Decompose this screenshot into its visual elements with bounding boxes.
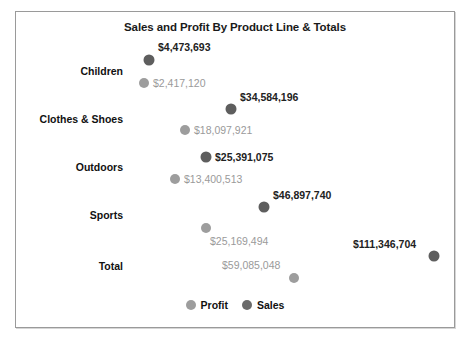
screenshot-root: Sales and Profit By Product Line & Total…: [0, 0, 465, 344]
legend-label-sales: Sales: [257, 299, 284, 311]
data-label-total-sales: $111,346,704: [353, 238, 416, 250]
plot-area: Children Clothes & Shoes Outdoors Sports…: [16, 12, 454, 327]
data-label-outdoors-sales: $25,391,075: [215, 151, 273, 163]
data-point-clothes-shoes-sales[interactable]: [226, 104, 237, 115]
legend-swatch-sales-icon: [242, 300, 252, 310]
data-label-sports-profit: $25,169,494: [210, 235, 268, 247]
category-label-sports: Sports: [90, 209, 123, 221]
category-label-total: Total: [99, 260, 123, 272]
data-label-outdoors-profit: $13,400,513: [184, 173, 242, 185]
chart-frame: Sales and Profit By Product Line & Total…: [15, 11, 455, 328]
data-point-outdoors-profit[interactable]: [170, 174, 180, 184]
data-label-sports-sales: $46,897,740: [273, 189, 331, 201]
category-label-outdoors: Outdoors: [76, 161, 123, 173]
data-point-children-sales[interactable]: [144, 55, 155, 66]
data-point-outdoors-sales[interactable]: [201, 152, 212, 163]
legend-swatch-profit-icon: [186, 300, 196, 310]
data-point-sports-profit[interactable]: [201, 223, 211, 233]
data-point-clothes-shoes-profit[interactable]: [180, 125, 190, 135]
data-point-total-profit[interactable]: [289, 273, 299, 283]
legend-label-profit: Profit: [201, 299, 228, 311]
legend-item-sales[interactable]: Sales: [242, 299, 284, 311]
data-point-children-profit[interactable]: [139, 78, 149, 88]
data-point-sports-sales[interactable]: [259, 202, 270, 213]
chart-legend: Profit Sales: [16, 299, 454, 311]
category-label-children: Children: [80, 65, 123, 77]
data-label-children-profit: $2,417,120: [153, 77, 206, 89]
data-point-total-sales[interactable]: [429, 251, 440, 262]
legend-item-profit[interactable]: Profit: [186, 299, 228, 311]
data-label-total-profit: $59,085,048: [222, 259, 280, 271]
data-label-children-sales: $4,473,693: [158, 41, 211, 53]
data-label-clothes-shoes-profit: $18,097,921: [194, 124, 252, 136]
category-label-clothes-shoes: Clothes & Shoes: [40, 113, 123, 125]
data-label-clothes-shoes-sales: $34,584,196: [240, 91, 298, 103]
